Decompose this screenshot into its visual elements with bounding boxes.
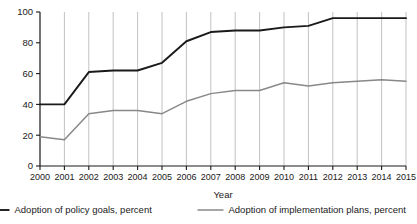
x-axis-title: Year (213, 189, 232, 200)
x-tick-label: 2014 (372, 172, 392, 182)
x-tick-label: 2015 (396, 172, 416, 182)
x-tick-label: 2000 (30, 172, 50, 182)
x-tick-label: 2005 (152, 172, 172, 182)
legend-item: Adoption of policy goals, percent (0, 204, 152, 215)
legend-item: Adoption of implementation plans, percen… (198, 204, 407, 215)
legend-item-label: Adoption of implementation plans, percen… (229, 204, 407, 215)
x-tick-label: 2004 (128, 172, 148, 182)
x-axis (40, 166, 406, 170)
x-tick-label: 2009 (250, 172, 270, 182)
y-axis (36, 12, 40, 166)
x-tick-label: 2013 (347, 172, 367, 182)
y-tick-label: 0 (28, 160, 33, 171)
x-tick-label: 2008 (225, 172, 245, 182)
x-tick-label: 2003 (103, 172, 123, 182)
line-chart: 020406080100 200020012002200320042005200… (0, 0, 417, 224)
x-tick-label: 2007 (201, 172, 221, 182)
legend-item-label: Adoption of policy goals, percent (15, 204, 153, 215)
x-tick-label: 2012 (323, 172, 343, 182)
x-tick-label: 2010 (274, 172, 294, 182)
y-tick-labels: 020406080100 (17, 6, 33, 171)
chart-legend: Adoption of policy goals, percentAdoptio… (0, 204, 406, 215)
y-tick-label: 60 (22, 68, 33, 79)
x-tick-label: 2006 (176, 172, 196, 182)
y-tick-label: 20 (22, 130, 33, 141)
x-tick-label: 2002 (79, 172, 99, 182)
series-line-2 (40, 80, 406, 140)
y-tick-label: 100 (17, 6, 33, 17)
y-tick-label: 40 (22, 99, 33, 110)
gridlines-group (40, 12, 406, 166)
chart-canvas: 020406080100 200020012002200320042005200… (0, 0, 417, 224)
y-tick-label: 80 (22, 37, 33, 48)
x-tick-labels: 2000200120022003200420052006200720082009… (30, 172, 416, 182)
x-tick-label: 2001 (54, 172, 74, 182)
series-lines (40, 18, 406, 140)
x-tick-label: 2011 (299, 172, 318, 182)
